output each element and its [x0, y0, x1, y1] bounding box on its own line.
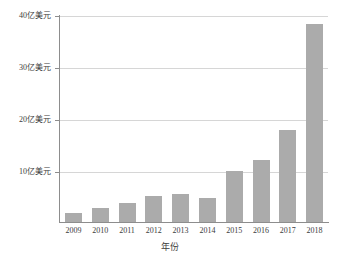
bar-2015[interactable] — [226, 16, 243, 222]
bar-2013[interactable] — [172, 16, 189, 222]
bar-2009[interactable] — [65, 16, 82, 222]
bar-rect — [145, 196, 162, 222]
y-tick-label-20: 20亿美元 — [0, 115, 51, 124]
bar-rect — [119, 203, 136, 222]
bar-rect — [199, 198, 216, 222]
bar-rect — [226, 171, 243, 223]
bar-2018[interactable] — [306, 16, 323, 222]
x-axis-tick-labels: 2009201020112012201320142015201620172018 — [60, 225, 328, 239]
bar-2012[interactable] — [145, 16, 162, 222]
x-tick-label-2010: 2010 — [87, 225, 114, 236]
y-tick-label-30: 30亿美元 — [0, 63, 51, 72]
bar-rect — [306, 24, 323, 222]
y-tick-label-10: 10亿美元 — [0, 167, 51, 176]
bar-2011[interactable] — [119, 16, 136, 222]
x-axis-spine — [59, 222, 329, 223]
y-tick-label-40: 40亿美元 — [0, 11, 51, 20]
x-tick-label-2011: 2011 — [114, 225, 141, 236]
bar-chart: 40亿美元 30亿美元 20亿美元 10亿美元 2009201020112012… — [0, 0, 339, 264]
bar-2014[interactable] — [199, 16, 216, 222]
bar-rect — [279, 130, 296, 222]
bar-rect — [172, 194, 189, 222]
bar-2010[interactable] — [92, 16, 109, 222]
x-tick-label-2013: 2013 — [167, 225, 194, 236]
x-tick-label-2014: 2014 — [194, 225, 221, 236]
x-tick-label-2017: 2017 — [274, 225, 301, 236]
bar-rect — [253, 160, 270, 222]
x-tick-label-2018: 2018 — [301, 225, 328, 236]
x-tick-label-2016: 2016 — [248, 225, 275, 236]
x-axis-title: 年份 — [0, 241, 339, 253]
bar-2017[interactable] — [279, 16, 296, 222]
bar-rect — [65, 213, 82, 222]
x-tick-label-2012: 2012 — [140, 225, 167, 236]
x-tick-label-2009: 2009 — [60, 225, 87, 236]
bar-rect — [92, 208, 109, 222]
bars-layer — [60, 16, 328, 222]
x-tick-label-2015: 2015 — [221, 225, 248, 236]
bar-2016[interactable] — [253, 16, 270, 222]
